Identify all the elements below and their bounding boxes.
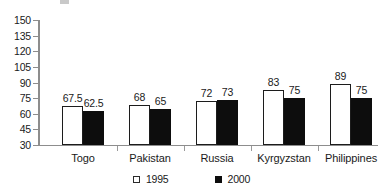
- bar-2000-russia: [217, 100, 238, 145]
- y-axis-tick-label: 45: [1, 124, 31, 135]
- y-axis-tick-label: 135: [1, 31, 31, 42]
- bar-group: 8375: [263, 20, 305, 145]
- y-axis-tick-label: 30: [1, 140, 31, 151]
- bar-value-label: 75: [280, 85, 310, 96]
- y-axis-tick-label: 90: [1, 78, 31, 89]
- x-axis-separator-tick: [251, 146, 252, 151]
- bar-chart: 3045607590105120135150 67.562.5686572738…: [0, 0, 383, 196]
- y-axis-tick: [33, 145, 39, 146]
- x-axis-separator-tick: [318, 146, 319, 151]
- x-axis-separator-tick: [184, 146, 185, 151]
- y-axis-tick-label: 60: [1, 109, 31, 120]
- x-axis-line: [38, 145, 378, 146]
- bar-1995-togo: [62, 106, 83, 145]
- bar-value-label: 73: [213, 87, 243, 98]
- x-axis-label-kyrgyzstan: Kyrgyzstan: [257, 152, 310, 164]
- bar-1995-kyrgyzstan: [263, 90, 284, 145]
- bar-2000-pakistan: [150, 109, 171, 145]
- bar-1995-russia: [196, 101, 217, 145]
- bar-group: 7273: [196, 20, 238, 145]
- hollow-square-icon: [133, 176, 140, 183]
- plot-area: 67.562.56865727383758975: [38, 20, 378, 145]
- bar-value-label: 65: [146, 96, 176, 107]
- legend-item-2000[interactable]: 2000: [215, 174, 251, 185]
- bar-2000-kyrgyzstan: [284, 98, 305, 145]
- x-axis-label-togo: Togo: [71, 152, 94, 164]
- y-axis-tick-label: 105: [1, 62, 31, 73]
- filled-square-icon: [215, 176, 222, 183]
- bar-2000-philippines: [351, 98, 372, 145]
- legend-label: 1995: [146, 174, 169, 185]
- bar-value-label: 75: [347, 85, 377, 96]
- bar-value-label: 89: [326, 71, 356, 82]
- y-axis-tick-label: 75: [1, 93, 31, 104]
- x-axis-label-russia: Russia: [200, 152, 233, 164]
- bar-group: 6865: [129, 20, 171, 145]
- bar-1995-pakistan: [129, 105, 150, 145]
- bar-value-label: 62.5: [79, 98, 109, 109]
- chart-legend: 19952000: [0, 174, 383, 185]
- scan-artifact: [60, 0, 69, 4]
- x-axis-separator-tick: [117, 146, 118, 151]
- bar-2000-togo: [83, 111, 104, 145]
- y-axis-tick-label: 120: [1, 46, 31, 57]
- y-axis-tick-label: 150: [1, 15, 31, 26]
- bar-group: 67.562.5: [62, 20, 104, 145]
- legend-item-1995[interactable]: 1995: [133, 174, 169, 185]
- x-axis-label-pakistan: Pakistan: [129, 152, 170, 164]
- bar-group: 8975: [330, 20, 372, 145]
- legend-label: 2000: [228, 174, 251, 185]
- x-axis-label-philippines: Philippines: [325, 152, 377, 164]
